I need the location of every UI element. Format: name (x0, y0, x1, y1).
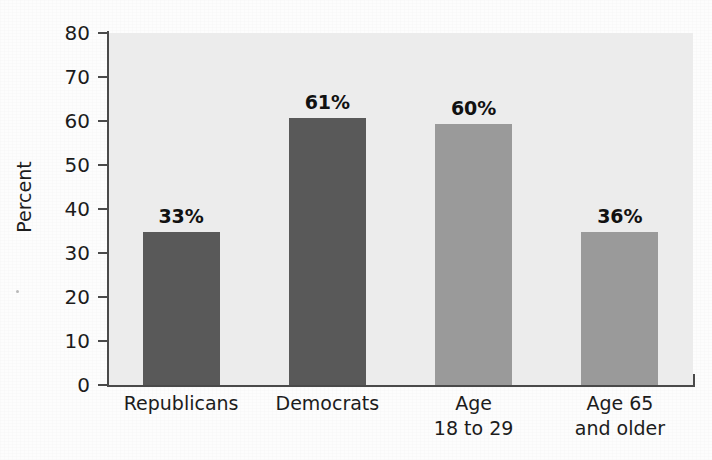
plot-area (108, 33, 693, 385)
x-axis-category-label-line1: Democrats (276, 392, 380, 414)
y-axis-tick (98, 120, 108, 122)
x-axis-category-label: Republicans (96, 391, 266, 416)
x-axis-category-label-line2: and older (535, 416, 705, 441)
bar (435, 124, 512, 385)
bar-chart-figure: — —— —— — ——— —— —— ——— —— ———— —— — ———… (0, 0, 712, 460)
y-axis-tick-label: 20 (36, 285, 90, 309)
y-axis-tick-label-text: 80 (36, 21, 90, 45)
y-axis-tick-label: 50 (36, 153, 90, 177)
x-axis-category-label: Age18 to 29 (389, 391, 559, 441)
y-axis-tick-label: 60 (36, 109, 90, 133)
x-axis-category-label-line1: Age 65 (586, 392, 653, 414)
y-axis-tick-label-text: 0 (36, 373, 90, 397)
y-axis-tick-label-text: 50 (36, 153, 90, 177)
y-axis-tick (98, 384, 108, 386)
x-axis-category-label: Democrats (242, 391, 412, 416)
y-axis-tick (98, 32, 108, 34)
y-axis-tick (98, 340, 108, 342)
y-axis-tick (98, 164, 108, 166)
y-axis-tick-label: 40 (36, 197, 90, 221)
bar (143, 232, 220, 385)
x-axis-category-label: Age 65and older (535, 391, 705, 441)
bar (581, 232, 658, 385)
y-axis-tick (98, 296, 108, 298)
y-axis-tick-label-text: 30 (36, 241, 90, 265)
y-axis-tick (98, 252, 108, 254)
bar (289, 118, 366, 385)
x-axis-category-label-line1: Republicans (124, 392, 239, 414)
y-axis-tick (98, 208, 108, 210)
y-axis-tick-label: 10 (36, 329, 90, 353)
y-axis-tick-label-text: 10 (36, 329, 90, 353)
y-axis-tick-label-text: 20 (36, 285, 90, 309)
y-axis-tick (98, 76, 108, 78)
x-axis-line (107, 385, 695, 387)
y-axis-tick-label-text: 40 (36, 197, 90, 221)
y-axis-tick-label: 80 (36, 21, 90, 45)
x-axis-category-label-line2: 18 to 29 (389, 416, 559, 441)
y-axis-tick-label: 0 (36, 373, 90, 397)
y-axis-tick-label-text: 70 (36, 65, 90, 89)
x-axis-right-cap (693, 374, 695, 387)
y-axis-tick-label: 70 (36, 65, 90, 89)
y-axis-tick-label-text: 60 (36, 109, 90, 133)
x-axis-category-label-line1: Age (455, 392, 492, 414)
y-axis-title: Percent (13, 152, 35, 242)
y-axis-tick-label: 30 (36, 241, 90, 265)
